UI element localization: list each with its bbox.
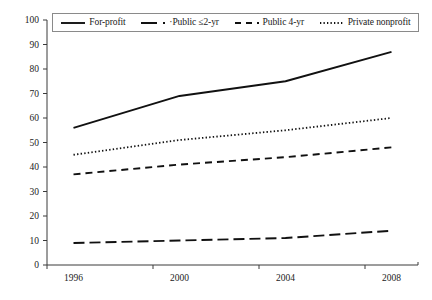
y-axis-tick-label: 90 — [30, 40, 40, 50]
y-axis: 0102030405060708090100 — [25, 15, 47, 270]
solid-line-swatch — [60, 18, 86, 28]
y-axis-tick-label: 40 — [30, 162, 40, 172]
x-axis-tick-label: 1996 — [64, 273, 83, 283]
legend-item-private-nonprofit: Private nonprofit — [319, 18, 411, 28]
y-axis-tick-label: 60 — [30, 113, 40, 123]
y-axis-tick-label: 0 — [34, 260, 39, 270]
y-axis-tick-label: 20 — [30, 211, 40, 221]
legend-item-for-profit: For-profit — [60, 18, 125, 28]
y-axis-tick-label: 100 — [25, 15, 40, 25]
chart-plot-area: 0102030405060708090100 1996200020042008 — [0, 0, 432, 300]
x-axis-tick-label: 2000 — [170, 273, 189, 283]
long-dash-line-swatch — [140, 18, 166, 28]
legend-item-public-2yr: ·Public ≤2-yr — [140, 18, 219, 28]
y-axis-tick-label: 10 — [30, 236, 40, 246]
series-line-private-nonprofit — [74, 118, 392, 155]
y-axis-tick-label: 80 — [30, 64, 40, 74]
series-line-public-4-yr — [74, 147, 392, 174]
legend-label-for-profit: For-profit — [89, 18, 125, 28]
chart-legend: For-profit ·Public ≤2-yr Public 4-yr Pri… — [52, 13, 419, 32]
legend-label-private-nonprofit: Private nonprofit — [348, 18, 411, 28]
x-axis: 1996200020042008 — [47, 262, 418, 283]
legend-label-public-2yr: ·Public ≤2-yr — [169, 18, 219, 28]
line-chart: For-profit ·Public ≤2-yr Public 4-yr Pri… — [0, 0, 432, 300]
y-axis-tick-label: 70 — [30, 89, 40, 99]
series-line-for-profit — [74, 52, 392, 128]
y-axis-tick-label: 30 — [30, 187, 40, 197]
dotted-line-swatch — [319, 18, 345, 28]
legend-item-public-4yr: Public 4-yr — [234, 18, 304, 28]
y-axis-tick-label: 50 — [30, 138, 40, 148]
data-series-group — [74, 52, 392, 243]
x-axis-tick-label: 2004 — [276, 273, 295, 283]
legend-label-public-4yr: Public 4-yr — [263, 18, 304, 28]
x-axis-tick-label: 2008 — [382, 273, 401, 283]
series-line-public-2-yr — [74, 231, 392, 243]
dash-line-swatch — [234, 18, 260, 28]
